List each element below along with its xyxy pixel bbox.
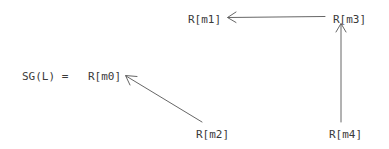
edge-m3-to-m1: [228, 12, 326, 23]
node-m4[interactable]: R[m4]: [329, 128, 362, 141]
node-m2[interactable]: R[m2]: [196, 128, 229, 141]
edge-m4-to-m3: [336, 24, 346, 123]
edge-m2-to-m0: [126, 76, 203, 123]
diagram-canvas: SG(L) = R[m0] R[m1] R[m2] R[m3] R[m4]: [0, 0, 389, 149]
node-m0[interactable]: R[m0]: [88, 70, 121, 83]
node-m1[interactable]: R[m1]: [188, 13, 221, 26]
node-m3[interactable]: R[m3]: [333, 13, 366, 26]
sg-assignment-label: SG(L) =: [22, 70, 68, 83]
